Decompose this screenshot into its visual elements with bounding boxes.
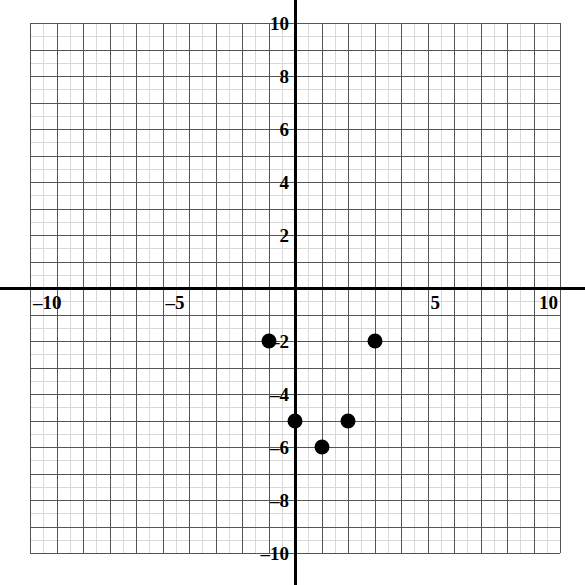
y-tick-label: –10 <box>261 544 290 563</box>
plot-area: –10–5510 108642–2–4–6–8–10 <box>30 23 560 553</box>
y-tick-label: –6 <box>270 438 289 457</box>
x-tick-label: 10 <box>539 293 558 312</box>
data-point <box>288 413 303 428</box>
y-tick-label: 10 <box>270 14 289 33</box>
y-tick-label: –4 <box>270 385 289 404</box>
x-tick-label: 5 <box>431 293 441 312</box>
y-tick-label: 2 <box>280 226 290 245</box>
data-point <box>314 440 329 455</box>
coordinate-plane-figure: –10–5510 108642–2–4–6–8–10 <box>0 0 585 585</box>
data-point <box>367 334 382 349</box>
y-tick-label: –8 <box>270 491 289 510</box>
x-tick-label: –10 <box>33 293 62 312</box>
y-tick-label: 4 <box>280 173 290 192</box>
y-tick-label: 6 <box>280 120 290 139</box>
x-tick-label: –5 <box>166 293 185 312</box>
x-axis <box>0 287 585 290</box>
data-point <box>261 334 276 349</box>
y-tick-label: 8 <box>280 67 290 86</box>
data-point <box>341 413 356 428</box>
y-axis <box>294 0 297 585</box>
